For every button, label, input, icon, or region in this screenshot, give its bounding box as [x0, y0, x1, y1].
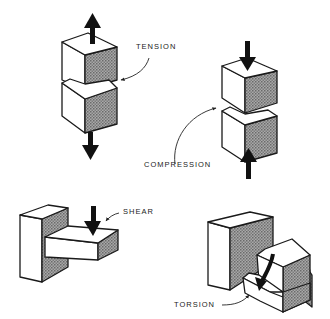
compression-leader-line: [175, 108, 216, 164]
torsion-label: TORSION: [174, 300, 215, 309]
shear-panel: SHEAR: [20, 205, 154, 282]
compression-panel: COMPRESSION: [144, 41, 277, 179]
torsion-leader-line: [222, 295, 249, 305]
compression-label: COMPRESSION: [144, 160, 211, 169]
stress-types-diagram: TENSION COMPRESSION: [0, 0, 330, 319]
torsion-panel: TORSION: [174, 212, 312, 312]
tension-label: TENSION: [136, 42, 176, 51]
tension-down-arrow-icon: [82, 132, 99, 160]
tension-panel: TENSION: [62, 13, 176, 160]
tension-leader-line: [121, 58, 149, 80]
shear-beam: [45, 226, 118, 260]
shear-label: SHEAR: [123, 207, 154, 216]
tension-lower-cube: [62, 79, 117, 133]
shear-leader-line: [106, 213, 119, 221]
